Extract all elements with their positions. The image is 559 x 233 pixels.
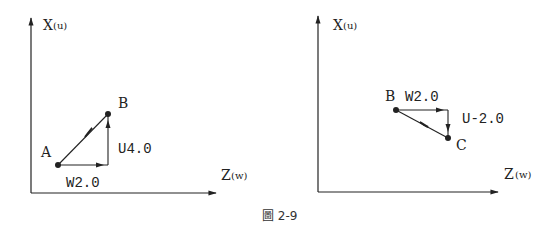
diagram-canvas: X (u) Z (w) A B W2.0 U4.0 X (u) Z (w) [0, 0, 559, 233]
right-z-axis-sub: (w) [515, 169, 531, 180]
left-point-a-label: A [40, 144, 52, 160]
right-point-c [445, 135, 451, 141]
right-u-label: U-2.0 [462, 111, 504, 127]
left-diagonal-arrow-icon [85, 128, 92, 137]
left-z-axis-label: Z [221, 167, 231, 183]
right-point-b-label: B [385, 88, 395, 104]
left-z-axis-sub: (w) [231, 170, 247, 181]
right-point-b [393, 107, 399, 113]
left-x-axis-label: X [43, 17, 53, 33]
figure-caption: 圖 2-9 [262, 206, 297, 223]
left-diagonal-path [58, 114, 108, 165]
right-panel: X (u) Z (w) B C W2.0 U-2.0 [318, 16, 531, 192]
right-w-label: W2.0 [405, 89, 439, 105]
right-point-c-label: C [456, 137, 467, 153]
right-vertical-arrow-icon [446, 124, 451, 132]
left-vertical-arrow-icon [106, 120, 111, 128]
left-x-axis-sub: (u) [53, 20, 67, 31]
right-z-axis-label: Z [504, 166, 514, 182]
left-w-label: W2.0 [66, 175, 100, 191]
right-x-axis-label: X [333, 17, 343, 33]
left-point-b [105, 111, 111, 117]
right-x-axis-sub: (u) [343, 20, 357, 31]
left-point-b-label: B [118, 95, 128, 111]
left-u-label: U4.0 [118, 141, 152, 157]
left-horizontal-arrow-icon [96, 163, 104, 168]
left-point-a [55, 162, 61, 168]
right-diagonal-arrow-icon [420, 122, 428, 127]
right-horizontal-arrow-icon [436, 108, 444, 113]
left-panel: X (u) Z (w) A B W2.0 U4.0 [31, 17, 247, 193]
